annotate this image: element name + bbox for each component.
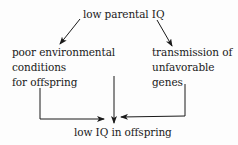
top-node: low parental IQ <box>83 7 164 22</box>
right-node-line-2: unfavorable <box>152 60 214 75</box>
arrow-left-to-bottom <box>40 88 104 119</box>
left-node-line-3: for offspring <box>12 75 77 90</box>
left-node-line-1: poor environmental <box>12 45 115 60</box>
bottom-node: low IQ in offspring <box>74 125 172 140</box>
diagram: low parental IQ poor environmental condi… <box>0 0 238 145</box>
right-node-line-1: transmission of <box>152 45 232 60</box>
left-node-line-2: conditions <box>12 60 66 75</box>
arrow-top-to-left <box>60 19 80 44</box>
right-node-line-3: genes <box>152 75 183 90</box>
arrow-top-to-right <box>157 20 172 46</box>
